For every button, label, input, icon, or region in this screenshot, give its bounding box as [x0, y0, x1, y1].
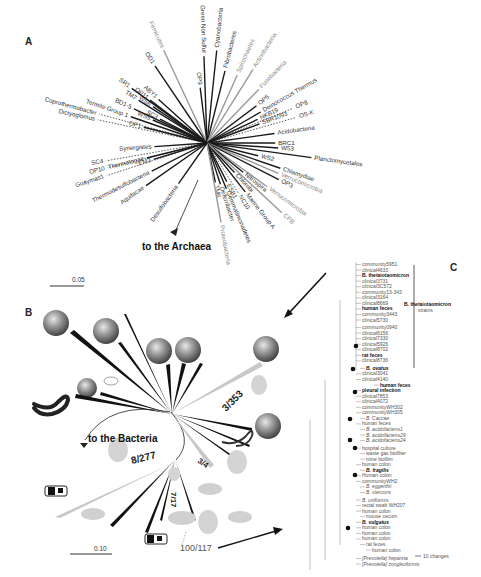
panel-c-tree: B. thetaiotaomicron strains 10 changes c…	[0, 0, 481, 577]
leaf-label: clinical8736	[362, 357, 388, 363]
bootstrap-node-dot	[354, 344, 359, 349]
bootstrap-node-dot	[348, 438, 353, 443]
leaf-label: clinical5730	[362, 317, 388, 323]
bootstrap-node-dot	[348, 417, 353, 422]
bootstrap-node-dot	[351, 367, 356, 372]
bootstrap-node-dot	[353, 446, 358, 451]
panel-c-scale-label: 10 changes	[423, 553, 449, 559]
bootstrap-node-dot	[353, 473, 358, 478]
bootstrap-node-dot	[346, 526, 351, 531]
leaf-label: human colon	[372, 547, 401, 553]
leaf-label: B. stercoris	[366, 489, 392, 495]
bracket-label-strains: strains	[418, 307, 433, 313]
bootstrap-node-dot	[353, 390, 358, 395]
leaf-label: [Prevotella] zoogleoformis	[361, 561, 420, 567]
leaf-label: B. acidofaciens24	[366, 437, 406, 443]
